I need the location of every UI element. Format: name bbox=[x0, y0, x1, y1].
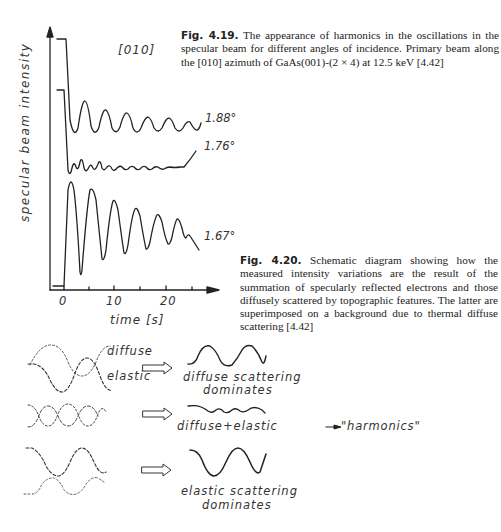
x-tick-0: 0 bbox=[59, 294, 67, 308]
row2-result-line1: diffuse+elastic bbox=[177, 419, 278, 433]
x-tick-10: 10 bbox=[106, 294, 123, 308]
curve-label-1-76: 1.76° bbox=[204, 139, 235, 153]
caption-label-4-19: Fig. 4.19. bbox=[181, 29, 239, 41]
caption-label-4-20: Fig. 4.20. bbox=[240, 254, 302, 266]
row3-elastic-wave bbox=[26, 448, 106, 476]
arrow-row2 bbox=[143, 408, 172, 420]
curve-label-1-88: 1.88° bbox=[205, 111, 236, 125]
caption-fig-4-20: Fig. 4.20. Schematic diagram showing how… bbox=[240, 254, 498, 334]
row2-wave-b bbox=[28, 406, 98, 427]
y-axis-label: specular beam intensity bbox=[18, 82, 32, 222]
row3-result-line2: dominates bbox=[202, 498, 272, 512]
label-diffuse: diffuse bbox=[107, 344, 153, 358]
curve-label-1-67: 1.67° bbox=[204, 229, 235, 243]
row3-diffuse-wave bbox=[24, 478, 104, 495]
row1-result-line1: diffuse scattering bbox=[183, 370, 302, 384]
row2-result-line2: "harmonics" bbox=[341, 419, 420, 433]
x-axis-label: time [s] bbox=[110, 313, 165, 327]
row3-result-wave bbox=[190, 448, 266, 476]
row1-result-line2: dominates bbox=[203, 383, 273, 397]
x-axis-arrow bbox=[207, 287, 219, 293]
arrow-row3 bbox=[142, 464, 171, 476]
caption-fig-4-19: Fig. 4.19. The appearance of harmonics i… bbox=[181, 29, 499, 69]
x-tick-20: 20 bbox=[160, 294, 177, 308]
azimuth-label: [010] bbox=[118, 43, 155, 57]
y-axis-arrow bbox=[47, 27, 53, 37]
row1-elastic-wave bbox=[28, 358, 112, 392]
row2-result-wave bbox=[188, 406, 265, 413]
curve-1-67 bbox=[53, 182, 199, 286]
curve-1-76 bbox=[57, 90, 196, 174]
label-elastic: elastic bbox=[107, 369, 151, 383]
row2-wave-a bbox=[28, 404, 106, 426]
row3-result-line1: elastic scattering bbox=[181, 484, 298, 498]
row1-result-wave bbox=[188, 346, 266, 366]
